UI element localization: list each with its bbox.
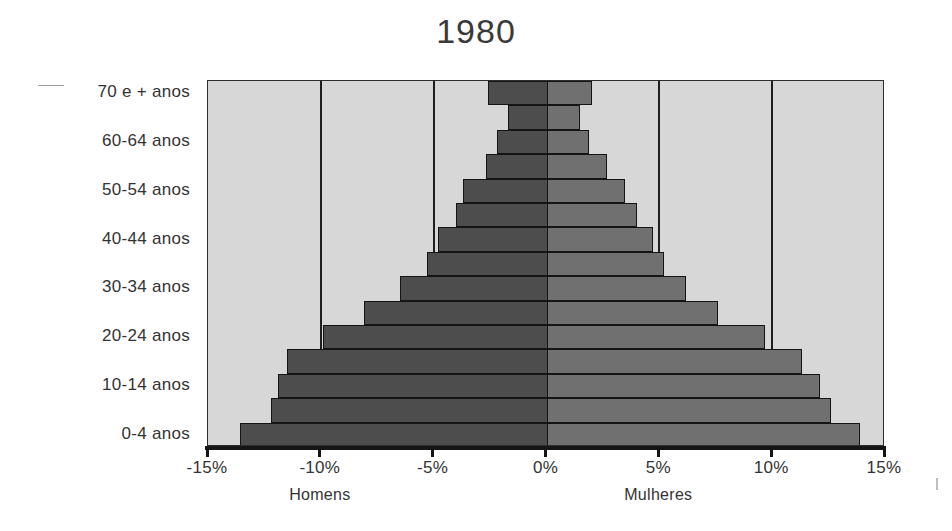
bar-mulheres: [547, 325, 766, 349]
bar-row: [208, 423, 883, 446]
bar-row: [208, 81, 883, 105]
caption-homens: Homens: [289, 486, 350, 504]
bar-homens: [463, 179, 548, 203]
bar-mulheres: [547, 398, 831, 422]
x-axis-tick: [883, 446, 886, 457]
y-axis-labels: 70 e + anos60-64 anos50-54 anos40-44 ano…: [0, 80, 198, 446]
bar-homens: [497, 130, 548, 154]
bar-row: [208, 398, 883, 422]
x-axis-tick-label: -15%: [187, 458, 228, 478]
caption-mulheres: Mulheres: [624, 486, 692, 504]
bar-row: [208, 276, 883, 300]
bar-row: [208, 349, 883, 373]
x-axis-tick-label: 15%: [867, 458, 902, 478]
bar-mulheres: [547, 203, 637, 227]
bar-mulheres: [547, 301, 719, 325]
page-title: 1980: [0, 12, 952, 51]
bar-homens: [364, 301, 548, 325]
bar-row: [208, 130, 883, 154]
x-axis-tick-label: -10%: [299, 458, 340, 478]
bar-mulheres: [547, 179, 626, 203]
bar-homens: [287, 349, 548, 373]
bar-mulheres: [547, 154, 608, 178]
bar-mulheres: [547, 252, 664, 276]
x-axis-tick: [770, 446, 773, 457]
bar-mulheres: [547, 349, 802, 373]
bar-row: [208, 105, 883, 129]
y-axis-label: 70 e + anos: [97, 82, 190, 102]
x-axis-tick: [657, 446, 660, 457]
y-axis-label: 10-14 anos: [102, 375, 190, 395]
bar-homens: [486, 154, 548, 178]
y-axis-label: 60-64 anos: [102, 131, 190, 151]
bar-homens: [240, 423, 548, 446]
x-axis-tick-label: 0%: [533, 458, 558, 478]
bar-mulheres: [547, 227, 653, 251]
y-axis-label: 30-34 anos: [102, 277, 190, 297]
bar-mulheres: [547, 81, 592, 105]
x-axis-tick-label: -5%: [417, 458, 448, 478]
x-axis-tick: [206, 446, 209, 457]
bar-homens: [323, 325, 548, 349]
bar-row: [208, 154, 883, 178]
bar-homens: [508, 105, 548, 129]
bar-row: [208, 374, 883, 398]
bar-row: [208, 203, 883, 227]
bar-row: [208, 227, 883, 251]
y-axis-label: 20-24 anos: [102, 326, 190, 346]
y-axis-label: 40-44 anos: [102, 229, 190, 249]
bar-row: [208, 301, 883, 325]
y-axis-label: 0-4 anos: [121, 424, 190, 444]
bar-homens: [400, 276, 548, 300]
plot-area: [207, 80, 884, 446]
bar-homens: [488, 81, 548, 105]
bar-homens: [278, 374, 548, 398]
bar-homens: [271, 398, 548, 422]
x-axis-tick-label: 10%: [754, 458, 789, 478]
bar-mulheres: [547, 423, 861, 446]
population-pyramid-figure: 1980 70 e + anos60-64 anos50-54 anos40-4…: [0, 0, 952, 531]
scan-artifact-right: [936, 478, 938, 490]
bar-homens: [438, 227, 548, 251]
x-axis-tick: [431, 446, 434, 457]
bar-row: [208, 179, 883, 203]
x-axis-tick-label: 5%: [646, 458, 671, 478]
x-axis-tick: [318, 446, 321, 457]
bar-homens: [427, 252, 548, 276]
bar-row: [208, 325, 883, 349]
y-axis-label: 50-54 anos: [102, 180, 190, 200]
bar-mulheres: [547, 130, 590, 154]
x-axis-tick: [544, 446, 547, 457]
bar-homens: [456, 203, 548, 227]
bar-mulheres: [547, 374, 820, 398]
bar-mulheres: [547, 105, 581, 129]
bar-row: [208, 252, 883, 276]
bar-mulheres: [547, 276, 687, 300]
